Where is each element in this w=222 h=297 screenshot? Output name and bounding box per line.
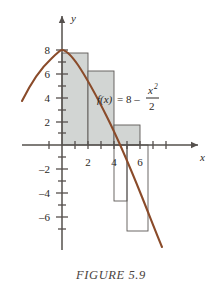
riemann-sum-plot: 2 4 6 8 6 4 2 –2 –4 –6 y x f(x) = 8 – x … xyxy=(0,0,222,268)
function-numerator-exponent: 2 xyxy=(154,82,158,91)
y-tick-label-neg6: –6 xyxy=(38,211,51,223)
y-tick-label-8: 8 xyxy=(45,44,51,56)
figure-container: 2 4 6 8 6 4 2 –2 –4 –6 y x f(x) = 8 – x … xyxy=(0,0,222,297)
y-tick-label-neg4: –4 xyxy=(38,187,51,199)
function-name: f(x) xyxy=(97,93,113,106)
function-equals: = 8 – xyxy=(117,93,140,105)
rectangle-bar-1 xyxy=(62,53,88,145)
rectangle-bar-2 xyxy=(88,71,114,145)
figure-caption: FIGURE 5.9 xyxy=(0,268,222,283)
function-denominator: 2 xyxy=(149,100,155,112)
x-axis-label: x xyxy=(199,151,205,163)
rectangle-bar-4 xyxy=(114,145,127,201)
x-tick-label-2: 2 xyxy=(85,156,91,168)
y-tick-label-6: 6 xyxy=(45,68,51,80)
x-tick-label-4: 4 xyxy=(111,156,117,168)
y-axis-label: y xyxy=(70,12,76,24)
y-tick-label-4: 4 xyxy=(45,92,51,104)
y-tick-label-2: 2 xyxy=(45,116,51,128)
x-tick-label-6: 6 xyxy=(137,156,143,168)
y-tick-label-neg2: –2 xyxy=(38,163,50,175)
function-numerator-var: x xyxy=(147,84,153,96)
rectangles-below-axis xyxy=(114,145,148,231)
